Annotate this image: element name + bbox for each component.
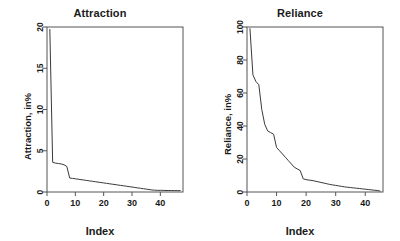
attraction-y-tick-label: 5 — [35, 148, 45, 153]
attraction-y-tick-label: 15 — [35, 63, 45, 73]
attraction-data-line — [50, 29, 180, 190]
chart-panel-attraction: Attraction Attraction, in% 0510152001020… — [0, 0, 200, 241]
chart-panel-reliance: Reliance Reliance, in% 02040608010001020… — [200, 0, 400, 241]
reliance-y-tick-label: 20 — [235, 154, 245, 164]
x-axis-title-reliance: Index — [200, 225, 400, 237]
x-axis-title-attraction: Index — [0, 225, 200, 237]
reliance-data-line — [250, 29, 380, 191]
attraction-y-tick-label: 0 — [35, 189, 45, 194]
reliance-x-tick-label: 30 — [331, 198, 341, 208]
reliance-x-tick-label: 40 — [360, 198, 370, 208]
reliance-y-tick-label: 60 — [235, 88, 245, 98]
plot-area-attraction: 05101520010203040 — [0, 0, 200, 241]
plot-area-reliance: 020406080100010203040 — [200, 0, 400, 241]
attraction-y-tick-label: 20 — [35, 22, 45, 32]
attraction-x-tick-label: 20 — [99, 198, 109, 208]
reliance-y-tick-label: 100 — [235, 20, 245, 34]
attraction-x-tick-label: 40 — [155, 198, 165, 208]
reliance-y-tick-label: 80 — [235, 55, 245, 65]
attraction-x-tick-label: 0 — [44, 198, 49, 208]
reliance-y-tick-label: 0 — [235, 189, 245, 194]
figure-panel-pair: Attraction Attraction, in% 0510152001020… — [0, 0, 400, 241]
reliance-x-tick-label: 0 — [244, 198, 249, 208]
attraction-x-tick-label: 10 — [70, 198, 80, 208]
reliance-x-tick-label: 10 — [272, 198, 282, 208]
attraction-y-tick-label: 10 — [35, 105, 45, 115]
attraction-x-tick-label: 30 — [127, 198, 137, 208]
reliance-plot-frame — [247, 27, 383, 192]
reliance-x-tick-label: 20 — [301, 198, 311, 208]
reliance-y-tick-label: 40 — [235, 121, 245, 131]
